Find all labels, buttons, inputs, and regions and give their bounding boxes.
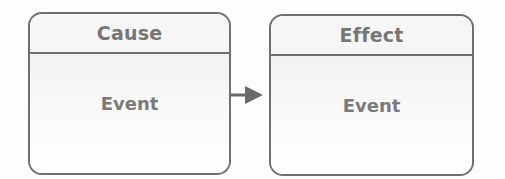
cause-node: Cause Event xyxy=(28,12,231,175)
cause-node-title: Cause xyxy=(97,24,163,43)
effect-node-title: Effect xyxy=(340,26,404,45)
arrow-right-icon xyxy=(230,85,266,105)
effect-node-header: Effect xyxy=(271,16,472,56)
effect-node-body-label: Event xyxy=(271,97,472,115)
effect-node-body: Event xyxy=(271,57,472,174)
cause-node-body-label: Event xyxy=(30,95,229,113)
diagram-canvas: Cause Event Effect Event xyxy=(0,0,505,179)
cause-node-body: Event xyxy=(30,55,229,173)
cause-node-header: Cause xyxy=(30,14,229,54)
effect-node: Effect Event xyxy=(269,14,474,176)
